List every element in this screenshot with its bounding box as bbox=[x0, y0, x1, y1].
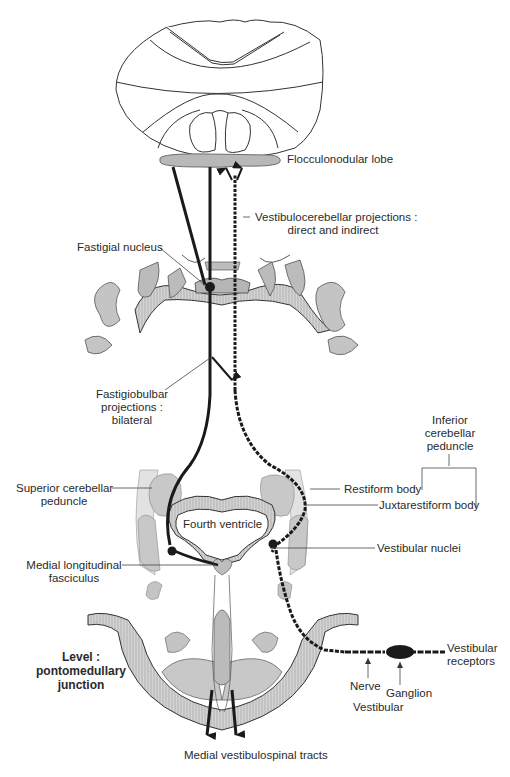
vestibular-nucleus-dot bbox=[269, 540, 278, 549]
label-ganglion: Ganglion bbox=[386, 687, 432, 700]
label-vestibulocerebellar-line1: Vestibulocerebellar projections : bbox=[255, 211, 411, 224]
cerebellar-cortex-section bbox=[85, 255, 358, 355]
label-nerve: Nerve bbox=[350, 680, 381, 693]
label-superior-line1: Superior cerebellar bbox=[16, 482, 112, 495]
label-juxtarestiform-body: Juxtarestiform body bbox=[379, 499, 479, 512]
label-vestibulocerebellar-line2: direct and indirect bbox=[255, 224, 411, 237]
label-inferior-line2: cerebellar bbox=[420, 427, 480, 440]
label-receptors-line1: Vestibular bbox=[447, 642, 498, 655]
label-fastigiobulbar-line1: Fastigiobulbar bbox=[82, 388, 182, 401]
medulla-section bbox=[88, 470, 358, 730]
label-fastigiobulbar-line2: projections : bbox=[82, 401, 182, 414]
label-medial-vestibulospinal-tracts: Medial vestibulospinal tracts bbox=[184, 749, 328, 762]
label-vestibular: Vestibular bbox=[353, 701, 404, 714]
label-fastigiobulbar-projections: Fastigiobulbar projections : bilateral bbox=[82, 388, 182, 427]
label-vestibular-nuclei: Vestibular nuclei bbox=[377, 542, 461, 555]
vestibulocerebellar-tracts bbox=[226, 168, 445, 652]
flocculonodular-lobe-shape bbox=[160, 154, 280, 168]
vestibular-ganglion-shape bbox=[386, 645, 414, 659]
label-receptors-line2: receptors bbox=[447, 655, 498, 668]
label-mlf-line1: Medial longitudinal bbox=[26, 559, 122, 572]
vestibular-nucleus-left-dot bbox=[168, 547, 177, 556]
label-vestibular-receptors: Vestibular receptors bbox=[447, 642, 498, 668]
label-inferior-line1: Inferior bbox=[420, 414, 480, 427]
label-level-line2: pontomedullary bbox=[36, 664, 126, 678]
label-fastigial-nucleus: Fastigial nucleus bbox=[77, 241, 163, 254]
fastigial-nucleus-dot bbox=[205, 282, 215, 292]
label-superior-line2: peduncle bbox=[16, 495, 112, 508]
label-fastigiobulbar-line3: bilateral bbox=[82, 414, 182, 427]
fourth-ventricle-shape bbox=[176, 509, 269, 560]
label-vestibulocerebellar-projections: Vestibulocerebellar projections : direct… bbox=[255, 211, 411, 237]
label-level-line3: junction bbox=[36, 678, 126, 692]
label-fourth-ventricle: Fourth ventricle bbox=[183, 518, 262, 531]
label-flocculonodular-lobe: Flocculonodular lobe bbox=[287, 153, 393, 166]
label-restiform-body: Restiform body bbox=[344, 483, 421, 496]
label-mlf-line2: fasciculus bbox=[26, 572, 122, 585]
label-inferior-cerebellar-peduncle: Inferior cerebellar peduncle bbox=[420, 414, 480, 453]
label-level-line1: Level : bbox=[36, 650, 126, 664]
cerebellum bbox=[116, 20, 323, 158]
label-superior-cerebellar-peduncle: Superior cerebellar peduncle bbox=[16, 482, 112, 508]
label-level-pontomedullary-junction: Level : pontomedullary junction bbox=[36, 650, 126, 692]
label-inferior-line3: peduncle bbox=[420, 440, 480, 453]
label-medial-longitudinal-fasciculus: Medial longitudinal fasciculus bbox=[26, 559, 122, 585]
